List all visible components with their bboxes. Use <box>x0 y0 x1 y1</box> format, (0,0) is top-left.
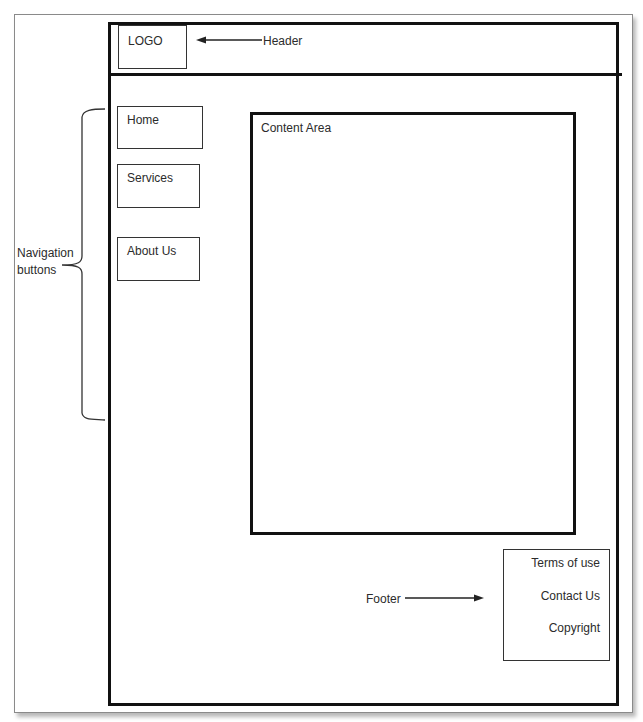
footer-link-terms-of-use[interactable]: Terms of use <box>531 556 600 570</box>
content-area: Content Area <box>250 112 576 535</box>
nav-button-services[interactable]: Services <box>117 164 200 208</box>
nav-button-about-us[interactable]: About Us <box>117 237 200 281</box>
logo-box[interactable]: LOGO <box>118 25 187 69</box>
footer-annotation: Footer <box>366 592 401 606</box>
navigation-annotation-line1: Navigation <box>17 245 74 262</box>
content-area-label: Content Area <box>261 121 331 135</box>
footer-link-copyright[interactable]: Copyright <box>549 621 600 635</box>
navigation-annotation: Navigation buttons <box>17 245 74 279</box>
footer-box: Terms of use Contact Us Copyright <box>503 549 610 661</box>
header-annotation: Header <box>263 34 302 48</box>
nav-button-label: Home <box>127 113 159 127</box>
nav-button-label: Services <box>127 171 173 185</box>
navigation-annotation-line2: buttons <box>17 262 74 279</box>
nav-button-home[interactable]: Home <box>117 106 203 149</box>
footer-link-contact-us[interactable]: Contact Us <box>541 589 600 603</box>
nav-button-label: About Us <box>127 244 176 258</box>
logo-label: LOGO <box>128 34 163 48</box>
header-divider <box>108 73 622 76</box>
